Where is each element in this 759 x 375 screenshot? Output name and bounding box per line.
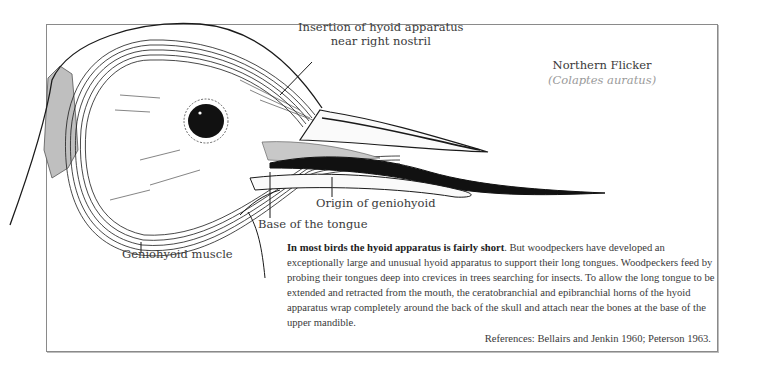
caption-paragraph: In most birds the hyoid apparatus is fai… bbox=[287, 240, 719, 330]
label-geniohyoid-muscle: Geniohyoid muscle bbox=[122, 247, 233, 261]
species-scientific-name: (Colaptes auratus) bbox=[548, 73, 656, 88]
label-insertion-line2: near right nostril bbox=[298, 34, 464, 48]
throat-outline bbox=[240, 190, 280, 278]
nape-patch bbox=[44, 66, 78, 178]
label-insertion-line1: Insertion of hyoid apparatus bbox=[298, 20, 464, 34]
species-common-name: Northern Flicker bbox=[548, 58, 656, 73]
references: References: Bellairs and Jenkin 1960; Pe… bbox=[485, 333, 711, 344]
caption-lead: In most birds the hyoid apparatus is fai… bbox=[287, 242, 504, 253]
label-base-tongue: Base of the tongue bbox=[258, 217, 368, 231]
eye bbox=[188, 104, 224, 138]
species-title: Northern Flicker (Colaptes auratus) bbox=[548, 58, 656, 88]
caption-body: . But woodpeckers have developed an exce… bbox=[287, 242, 714, 328]
eye-highlight bbox=[198, 111, 201, 114]
label-insertion-hyoid: Insertion of hyoid apparatus near right … bbox=[298, 20, 464, 48]
label-origin-geniohyoid: Origin of geniohyoid bbox=[316, 196, 436, 210]
